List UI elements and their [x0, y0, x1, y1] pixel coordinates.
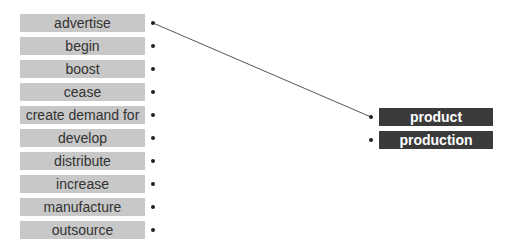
left-dot-create-demand-for[interactable]	[151, 113, 155, 117]
left-item-advertise[interactable]: advertise	[20, 14, 145, 32]
left-dot-distribute[interactable]	[151, 159, 155, 163]
right-item-product[interactable]: product	[379, 108, 493, 126]
left-item-cease[interactable]: cease	[20, 83, 145, 101]
left-dot-boost[interactable]	[151, 67, 155, 71]
left-dot-increase[interactable]	[151, 182, 155, 186]
left-dot-cease[interactable]	[151, 90, 155, 94]
left-item-manufacture[interactable]: manufacture	[20, 198, 145, 216]
right-item-production[interactable]: production	[379, 131, 493, 149]
connection-advertise-product	[153, 23, 371, 117]
left-dot-manufacture[interactable]	[151, 205, 155, 209]
left-dot-begin[interactable]	[151, 44, 155, 48]
right-dot-production[interactable]	[369, 138, 373, 142]
left-dot-develop[interactable]	[151, 136, 155, 140]
left-item-outsource[interactable]: outsource	[20, 221, 145, 239]
left-item-boost[interactable]: boost	[20, 60, 145, 78]
left-dot-outsource[interactable]	[151, 228, 155, 232]
left-item-create-demand-for[interactable]: create demand for	[20, 106, 145, 124]
left-dot-advertise[interactable]	[151, 21, 155, 25]
left-item-begin[interactable]: begin	[20, 37, 145, 55]
left-item-distribute[interactable]: distribute	[20, 152, 145, 170]
left-item-develop[interactable]: develop	[20, 129, 145, 147]
right-dot-product[interactable]	[369, 115, 373, 119]
left-item-increase[interactable]: increase	[20, 175, 145, 193]
